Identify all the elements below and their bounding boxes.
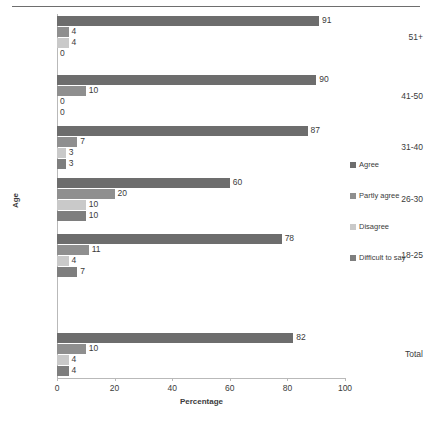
x-tick-label: 0 [55,383,60,393]
x-tick-mark [115,378,116,381]
category-label: 51+ [374,32,423,42]
bar-row: 60 [57,178,345,188]
bar-group: 821044 [57,333,345,377]
bar [57,366,69,376]
bar [57,16,319,26]
bar [57,256,69,266]
legend-label: Agree [359,160,379,169]
bar-value-label: 4 [69,37,77,48]
x-tick-mark [230,378,231,381]
bar-row: 4 [57,38,345,48]
x-tick-mark [287,378,288,381]
legend-item[interactable]: Agree [350,160,430,169]
bar-group: 901000 [57,75,345,119]
bar-row: 91 [57,16,345,26]
bar-row: 3 [57,148,345,158]
bar-value-label: 10 [86,199,98,210]
bar-value-label: 3 [66,158,74,169]
bar-row: 82 [57,333,345,343]
bar-group: 91440 [57,16,345,60]
bar-row: 7 [57,267,345,277]
bar-value-label: 0 [57,107,65,118]
bar-row: 11 [57,245,345,255]
bar-value-label: 78 [282,233,294,244]
legend-swatch-icon [350,255,356,261]
x-tick-mark [57,378,58,381]
bar-chart-figure: 914409010008773360201010781147821044 51+… [0,0,431,422]
bar-value-label: 7 [77,266,85,277]
bar-row: 3 [57,159,345,169]
bar [57,75,316,85]
bar-value-label: 60 [230,177,242,188]
x-tick-mark [172,378,173,381]
category-label: 31-40 [374,142,423,152]
bar [57,245,89,255]
bar-row: 4 [57,366,345,376]
bar [57,27,69,37]
bar-value-label: 91 [319,15,331,26]
x-tick-label: 40 [167,383,176,393]
category-label: Total [374,349,423,359]
bar-row: 4 [57,27,345,37]
bar-value-label: 20 [115,188,127,199]
legend-swatch-icon [350,224,356,230]
bar-row: 10 [57,344,345,354]
bar [57,355,69,365]
bar-row: 90 [57,75,345,85]
legend-label: Difficult to say [359,253,406,262]
legend-swatch-icon [350,162,356,168]
bar-value-label: 90 [316,74,328,85]
bar-value-label: 10 [86,210,98,221]
x-axis-line [57,378,346,379]
bar [57,86,86,96]
bar-group: 781147 [57,234,345,278]
y-axis-title: Age [11,193,20,208]
bar [57,344,86,354]
x-tick-label: 80 [283,383,292,393]
bar-value-label: 4 [69,255,77,266]
bar-value-label: 11 [89,244,101,255]
bar-row: 7 [57,137,345,147]
x-tick-mark [345,378,346,381]
bar-value-label: 7 [77,136,85,147]
bar-row: 0 [57,97,345,107]
bar-row: 4 [57,256,345,266]
legend-item[interactable]: Partly agree [350,191,430,200]
bar-value-label: 4 [69,26,77,37]
bar-row: 87 [57,126,345,136]
legend-item[interactable]: Disagree [350,222,430,231]
legend-swatch-icon [350,193,356,199]
x-tick-label: 60 [225,383,234,393]
bar-group: 87733 [57,126,345,170]
bar-value-label: 3 [66,147,74,158]
category-label: 41-50 [374,91,423,101]
bar [57,200,86,210]
bar [57,38,69,48]
bar-value-label: 4 [69,354,77,365]
bar [57,189,115,199]
x-axis-title: Percentage [57,397,346,406]
bar-value-label: 0 [57,96,65,107]
bar [57,234,282,244]
bar-group: 60201010 [57,178,345,222]
bar [57,159,66,169]
bar-value-label: 0 [57,48,65,59]
bar-row: 0 [57,108,345,118]
legend-item[interactable]: Difficult to say [350,253,430,262]
legend-label: Disagree [359,222,389,231]
bar [57,126,308,136]
bar-row: 0 [57,49,345,59]
x-tick-label: 20 [110,383,119,393]
bar [57,211,86,221]
bar-row: 78 [57,234,345,244]
bar-value-label: 10 [86,85,98,96]
legend-label: Partly agree [359,191,399,200]
bar [57,148,66,158]
bar-row: 4 [57,355,345,365]
bar [57,178,230,188]
bar-row: 10 [57,211,345,221]
bar-value-label: 4 [69,365,77,376]
bar-row: 10 [57,86,345,96]
bar-value-label: 82 [293,332,305,343]
bar-row: 20 [57,189,345,199]
